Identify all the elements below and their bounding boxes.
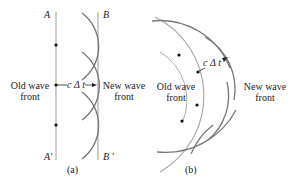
arrowhead-icon xyxy=(92,83,97,87)
caption-a: (a) xyxy=(67,164,78,175)
source-dot xyxy=(180,119,183,122)
source-dot xyxy=(54,123,57,126)
source-dot xyxy=(195,103,198,106)
source-dot xyxy=(177,53,180,56)
wavelet-arc-2 xyxy=(205,37,235,100)
old-wave-front-label-b: Old wave front xyxy=(153,81,199,103)
new-wave-front-label-a: New wave front xyxy=(100,80,148,102)
distance-label-a: c Δ t xyxy=(67,79,85,90)
wavelet-arc-3 xyxy=(208,82,229,140)
source-dot xyxy=(54,43,57,46)
label-a: A xyxy=(44,9,50,20)
caption-b: (b) xyxy=(185,164,197,175)
label-b: B xyxy=(103,9,109,20)
label-a-prime: A′ xyxy=(44,151,52,162)
label-b-prime: B ′ xyxy=(103,151,114,162)
old-wave-front-label-a: Old wave front xyxy=(8,80,52,102)
distance-label-b: c Δ t xyxy=(203,57,221,68)
new-wave-front-label-b: New wave front xyxy=(240,81,290,103)
